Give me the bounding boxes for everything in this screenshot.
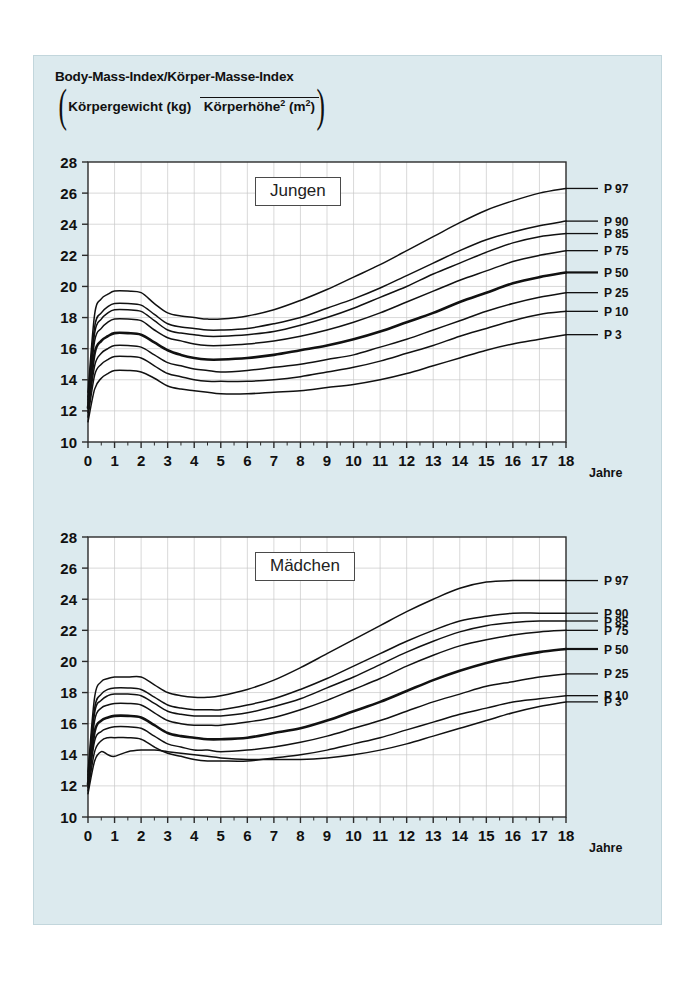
- paren-open-glyph: (: [58, 89, 66, 122]
- svg-text:13: 13: [425, 827, 442, 844]
- svg-text:8: 8: [296, 827, 304, 844]
- svg-text:3: 3: [163, 827, 171, 844]
- svg-text:0: 0: [84, 452, 92, 469]
- chart-boys: 1012141618202224262801234567891011121314…: [33, 150, 662, 480]
- figure-title: Body-Mass-Index/Körper-Masse-Index: [55, 69, 475, 84]
- svg-text:9: 9: [323, 827, 331, 844]
- denominator-base: Körperhöhe: [204, 99, 281, 114]
- percentile-label: P 50: [604, 266, 629, 280]
- svg-text:12: 12: [398, 827, 415, 844]
- denominator-unit: (m: [285, 99, 305, 114]
- svg-text:24: 24: [60, 591, 77, 608]
- svg-text:12: 12: [398, 452, 415, 469]
- svg-text:28: 28: [60, 154, 77, 171]
- chart-title-girls: Mädchen: [255, 552, 355, 581]
- bmi-formula: ( Körpergewicht (kg) Körperhöhe2 (m2) ): [55, 89, 475, 122]
- svg-text:10: 10: [60, 434, 77, 451]
- svg-text:17: 17: [531, 827, 548, 844]
- svg-text:26: 26: [60, 185, 77, 202]
- xaxis-label-boys: Jahre: [589, 466, 622, 480]
- plot-area-boys: 1012141618202224262801234567891011121314…: [33, 150, 662, 480]
- svg-text:5: 5: [217, 827, 225, 844]
- fraction: Körpergewicht (kg) Körperhöhe2 (m2): [64, 97, 319, 115]
- svg-text:1: 1: [110, 827, 118, 844]
- plot-area-girls: 1012141618202224262801234567891011121314…: [33, 525, 662, 855]
- svg-text:3: 3: [163, 452, 171, 469]
- svg-text:9: 9: [323, 452, 331, 469]
- svg-text:15: 15: [478, 827, 495, 844]
- svg-text:16: 16: [60, 340, 77, 357]
- svg-text:13: 13: [425, 452, 442, 469]
- fraction-denominator: Körperhöhe2 (m2): [200, 97, 319, 114]
- figure-panel: Body-Mass-Index/Körper-Masse-Index ( Kör…: [33, 55, 662, 925]
- percentile-label: P 10: [604, 305, 629, 319]
- chart-title-boys: Jungen: [255, 177, 341, 206]
- percentile-label: P 85: [604, 227, 629, 241]
- denominator-unit-close: ): [311, 99, 316, 114]
- svg-text:10: 10: [60, 809, 77, 826]
- svg-text:11: 11: [372, 827, 388, 844]
- svg-text:14: 14: [60, 371, 77, 388]
- percentile-label: P 3: [604, 695, 622, 709]
- svg-text:22: 22: [60, 622, 77, 639]
- xaxis-label-girls: Jahre: [589, 841, 622, 855]
- svg-text:20: 20: [60, 653, 77, 670]
- percentile-label: P 75: [604, 624, 629, 638]
- svg-text:24: 24: [60, 216, 77, 233]
- percentile-label: P 25: [604, 667, 629, 681]
- svg-text:2: 2: [137, 452, 145, 469]
- svg-text:7: 7: [270, 827, 278, 844]
- chart-girls: 1012141618202224262801234567891011121314…: [33, 525, 662, 855]
- svg-text:4: 4: [190, 452, 199, 469]
- svg-text:16: 16: [505, 827, 522, 844]
- percentile-label: P 50: [604, 643, 629, 657]
- svg-text:8: 8: [296, 452, 304, 469]
- svg-text:16: 16: [60, 715, 77, 732]
- svg-text:0: 0: [84, 827, 92, 844]
- svg-text:4: 4: [190, 827, 199, 844]
- svg-text:14: 14: [60, 746, 77, 763]
- svg-text:10: 10: [345, 452, 362, 469]
- svg-text:20: 20: [60, 278, 77, 295]
- svg-text:18: 18: [558, 827, 575, 844]
- svg-text:12: 12: [60, 402, 77, 419]
- svg-text:16: 16: [505, 452, 522, 469]
- svg-text:15: 15: [478, 452, 495, 469]
- percentile-label: P 97: [604, 574, 629, 588]
- svg-text:2: 2: [137, 827, 145, 844]
- svg-text:6: 6: [243, 452, 251, 469]
- svg-text:12: 12: [60, 777, 77, 794]
- svg-text:1: 1: [110, 452, 118, 469]
- svg-text:18: 18: [60, 309, 77, 326]
- svg-text:14: 14: [451, 827, 468, 844]
- percentile-label: P 97: [604, 182, 629, 196]
- svg-boys: 1012141618202224262801234567891011121314…: [33, 150, 662, 480]
- figure-heading: Body-Mass-Index/Körper-Masse-Index ( Kör…: [55, 69, 475, 122]
- fraction-numerator: Körpergewicht (kg): [64, 99, 195, 115]
- svg-text:6: 6: [243, 827, 251, 844]
- svg-text:18: 18: [60, 684, 77, 701]
- svg-text:14: 14: [451, 452, 468, 469]
- svg-text:26: 26: [60, 560, 77, 577]
- percentile-label: P 25: [604, 286, 629, 300]
- svg-text:10: 10: [345, 827, 362, 844]
- svg-text:28: 28: [60, 529, 77, 546]
- svg-text:5: 5: [217, 452, 225, 469]
- percentile-label: P 75: [604, 244, 629, 258]
- svg-text:7: 7: [270, 452, 278, 469]
- svg-text:18: 18: [558, 452, 575, 469]
- svg-text:22: 22: [60, 247, 77, 264]
- percentile-label: P 3: [604, 328, 622, 342]
- svg-text:11: 11: [372, 452, 388, 469]
- svg-text:17: 17: [531, 452, 548, 469]
- paren-close-glyph: ): [317, 89, 325, 122]
